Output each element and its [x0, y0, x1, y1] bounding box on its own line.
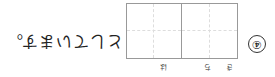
question-number: ④	[248, 35, 266, 53]
furigana-2: ち	[204, 63, 211, 73]
furigana-1: き	[226, 63, 233, 73]
furigana-3: は	[160, 63, 167, 73]
worksheet-item: ④ き ち は としています。	[0, 0, 275, 77]
answer-box-1[interactable]	[182, 4, 238, 58]
trailing-text: としています。	[6, 31, 123, 55]
answer-box-2[interactable]	[127, 4, 182, 58]
answer-boxes	[126, 3, 238, 59]
